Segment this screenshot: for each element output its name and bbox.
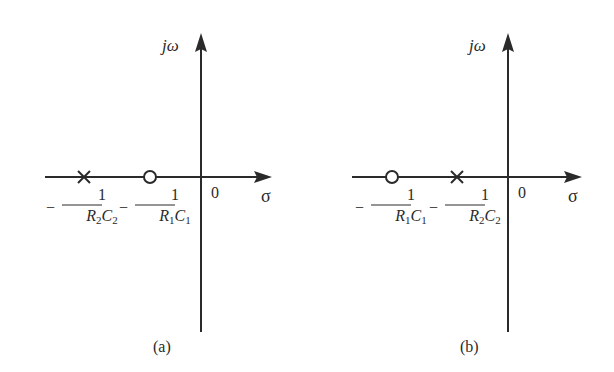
numerator: 1 xyxy=(391,187,431,203)
denominator: R1C1 xyxy=(155,208,195,226)
panel-b-sigma-label: σ xyxy=(568,187,578,205)
panel-b-axes xyxy=(352,33,582,332)
panel-b-caption: (b) xyxy=(460,339,479,355)
minus-sign: − xyxy=(429,200,438,216)
numerator: 1 xyxy=(155,187,195,203)
panel-a-pole-label: − 1 R2C2 xyxy=(62,187,102,223)
minus-sign: − xyxy=(355,200,364,216)
numerator: 1 xyxy=(82,187,122,203)
panel-b-zero-label: − 1 R1C1 xyxy=(371,187,411,223)
panel-a-sigma-label: σ xyxy=(261,187,271,205)
numerator: 1 xyxy=(465,187,505,203)
denominator: R2C2 xyxy=(465,208,505,226)
panel-a-zero-label: − 1 R1C1 xyxy=(135,187,175,223)
minus-sign: − xyxy=(119,200,128,216)
minus-sign: − xyxy=(46,200,55,216)
panel-a-axes xyxy=(45,33,272,332)
panel-a-origin-label: 0 xyxy=(211,185,219,201)
panel-a-caption: (a) xyxy=(153,339,171,355)
denominator: R2C2 xyxy=(82,208,122,226)
panel-a-jw-label: jω xyxy=(162,37,179,54)
panel-b-jw-label: jω xyxy=(469,37,486,54)
panel-a-zero-icon xyxy=(144,171,156,183)
panel-b-origin-label: 0 xyxy=(518,185,526,201)
denominator: R1C1 xyxy=(391,208,431,226)
panel-b-pole-label: − 1 R2C2 xyxy=(445,187,485,223)
panel-b-zero-icon xyxy=(386,171,398,183)
